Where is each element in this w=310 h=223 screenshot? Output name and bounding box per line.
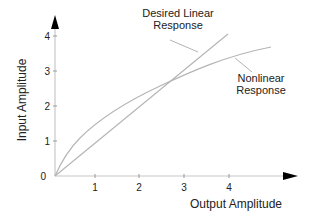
chart: 0 1 2 3 4 1 2 3 4 Output Amplitude Input… [0,0,310,223]
y-tick-label: 4 [44,31,50,42]
y-tick-label: 3 [44,66,50,77]
x-axis-arrow-icon [283,172,298,180]
x-axis-title: Output Amplitude [190,197,282,211]
y-tick-label: 1 [44,136,50,147]
annotation-linear-line1: Desired Linear [142,7,214,19]
nonlinear-response-curve [55,47,271,176]
linear-response-line [55,34,228,176]
annotation-nonlinear-line1: Nonlinear [237,72,284,84]
x-tick-label: 4 [226,182,232,193]
linear-leader-line [170,40,198,52]
annotation-nonlinear-line2: Response [236,84,286,96]
nonlinear-leader-line [235,58,252,72]
x-tick-label: 2 [136,182,142,193]
annotation-linear-line2: Response [153,19,203,31]
y-tick-label: 2 [44,101,50,112]
y-axis-arrow-icon [51,15,59,29]
x-tick-label: 3 [181,182,187,193]
y-axis-title: Input Amplitude [15,58,29,141]
y-tick-label: 0 [40,171,46,182]
x-tick-label: 1 [92,182,98,193]
